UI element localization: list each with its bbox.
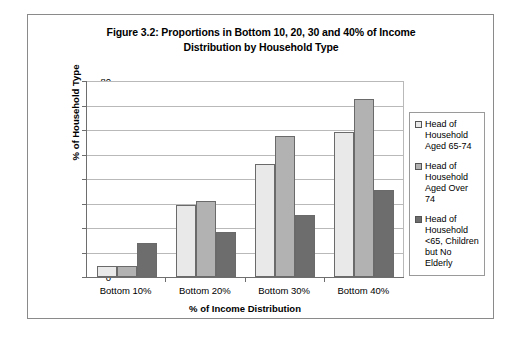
x-tick-mark xyxy=(165,278,166,282)
bar[interactable] xyxy=(295,215,315,277)
y-axis-title: % of Household Type xyxy=(70,38,81,188)
x-category-label: Bottom 10% xyxy=(83,285,169,296)
bar[interactable] xyxy=(354,99,374,277)
bar-group xyxy=(255,81,315,277)
legend-item[interactable]: Head ofHousehold<65, Childrenbut No Elde… xyxy=(415,214,480,269)
chart-title-line-2: Distribution by Household Type xyxy=(56,40,466,55)
x-category-label: Bottom 30% xyxy=(241,285,327,296)
legend-label: Head ofHouseholdAged Over 74 xyxy=(425,161,480,205)
legend-swatch-icon xyxy=(415,216,422,223)
legend-swatch-icon xyxy=(415,121,422,128)
bar[interactable] xyxy=(334,132,354,277)
bar-group xyxy=(176,81,236,277)
bar[interactable] xyxy=(275,136,295,277)
bar[interactable] xyxy=(137,243,157,277)
chart-title: Figure 3.2: Proportions in Bottom 10, 20… xyxy=(56,25,466,55)
bar[interactable] xyxy=(97,266,117,278)
bar[interactable] xyxy=(176,205,196,277)
legend-label: Head ofHousehold<65, Childrenbut No Elde… xyxy=(425,214,480,269)
bar[interactable] xyxy=(196,201,216,277)
x-tick-mark xyxy=(245,278,246,282)
x-category-label: Bottom 20% xyxy=(162,285,248,296)
legend-label: Head ofHouseholdAged 65-74 xyxy=(425,119,472,152)
bar[interactable] xyxy=(117,266,137,278)
x-category-label: Bottom 40% xyxy=(320,285,406,296)
bar[interactable] xyxy=(374,190,394,277)
legend-swatch-icon xyxy=(415,163,422,170)
chart-legend: Head ofHouseholdAged 65-74Head ofHouseho… xyxy=(409,112,485,276)
bar[interactable] xyxy=(216,232,236,277)
bar-group xyxy=(334,81,394,277)
bars-layer xyxy=(87,81,404,277)
x-tick-mark xyxy=(324,278,325,282)
x-axis-title: % of Income Distribution xyxy=(86,303,404,314)
bar[interactable] xyxy=(255,164,275,277)
legend-item[interactable]: Head ofHouseholdAged Over 74 xyxy=(415,161,480,205)
legend-item[interactable]: Head ofHouseholdAged 65-74 xyxy=(415,119,480,152)
figure-frame: Figure 3.2: Proportions in Bottom 10, 20… xyxy=(27,14,494,319)
chart-title-line-1: Figure 3.2: Proportions in Bottom 10, 20… xyxy=(56,25,466,40)
bar-group xyxy=(97,81,157,277)
